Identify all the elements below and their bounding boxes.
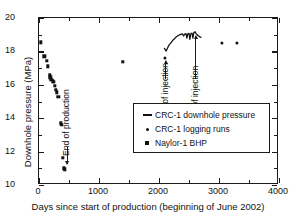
data-point (39, 41, 42, 44)
y-tick-right (272, 152, 277, 153)
x-tick-top (219, 18, 220, 23)
x-tick-minor-top (249, 18, 250, 21)
y-tick-minor (39, 135, 42, 136)
y-tick (39, 152, 44, 153)
y-axis-title: Downhole pressure (MPa) (22, 57, 33, 167)
y-tick-label: 14 (0, 112, 15, 122)
legend-label: CRC-1 logging runs (155, 124, 230, 134)
x-tick-minor-top (69, 18, 70, 21)
y-tick-right (272, 85, 277, 86)
y-tick-right (272, 18, 277, 19)
legend-key-line-icon (139, 114, 155, 115)
annotation-arrowhead (194, 35, 198, 39)
data-point (56, 95, 59, 98)
x-tick-top (279, 18, 280, 23)
legend-key-dot-icon (139, 128, 155, 131)
chart-legend: CRC-1 downhole pressure CRC-1 logging ru… (133, 103, 270, 153)
data-point (46, 65, 49, 68)
y-tick-minor (39, 68, 42, 69)
x-axis-title: Days since start of production (beginnin… (0, 201, 296, 212)
annotation-arrowhead (65, 161, 69, 165)
x-tick-minor (129, 180, 130, 183)
x-tick-label: 0 (15, 186, 61, 196)
y-tick-minor (39, 168, 42, 169)
legend-key-square-icon (139, 141, 155, 145)
y-tick-label: 18 (0, 45, 15, 55)
y-tick-minor-right (274, 35, 277, 36)
data-point (61, 156, 64, 159)
data-point (45, 59, 48, 62)
y-tick-minor-right (274, 68, 277, 69)
y-tick-label: 16 (0, 79, 15, 89)
x-tick-minor (189, 180, 190, 183)
legend-label: Naylor-1 BHP (155, 138, 207, 148)
y-tick-minor (39, 35, 42, 36)
x-tick-minor-top (129, 18, 130, 21)
x-tick-minor (249, 180, 250, 183)
y-tick-right (272, 118, 277, 119)
y-tick-minor-right (274, 168, 277, 169)
x-tick (279, 178, 280, 183)
y-tick-label: 12 (0, 146, 15, 156)
legend-label: CRC-1 downhole pressure (155, 110, 255, 120)
x-tick-top (99, 18, 100, 23)
data-point (43, 55, 46, 58)
y-tick (39, 51, 44, 52)
x-tick-top (39, 18, 40, 23)
data-point (55, 91, 58, 94)
x-tick-label: 3000 (195, 186, 241, 196)
y-tick-label: 20 (0, 12, 15, 22)
legend-item-naylor-bhp: Naylor-1 BHP (139, 136, 264, 150)
x-tick-top (159, 18, 160, 23)
legend-item-logging-runs: CRC-1 logging runs (139, 122, 264, 136)
x-tick-minor-top (189, 18, 190, 21)
x-tick (219, 178, 220, 183)
x-tick-label: 1000 (75, 186, 121, 196)
x-tick (39, 178, 40, 183)
plot-area: End of productionStart of injectionEnd o… (38, 17, 278, 184)
pressure-curve (39, 18, 279, 185)
data-point (121, 60, 124, 63)
annotation-label: End of production (61, 89, 71, 156)
y-tick-minor-right (274, 135, 277, 136)
y-tick-minor (39, 102, 42, 103)
data-point (63, 167, 66, 170)
chart-figure: End of productionStart of injectionEnd o… (0, 0, 296, 224)
y-tick-minor-right (274, 102, 277, 103)
x-tick (159, 178, 160, 183)
x-tick-minor (69, 180, 70, 183)
y-tick (39, 118, 44, 119)
legend-item-downhole-pressure: CRC-1 downhole pressure (139, 108, 264, 122)
y-tick-right (272, 51, 277, 52)
y-tick-label: 10 (0, 179, 15, 189)
x-tick-label: 2000 (135, 186, 181, 196)
x-tick-label: 4000 (255, 186, 296, 196)
x-tick (99, 178, 100, 183)
y-tick (39, 85, 44, 86)
data-point (53, 84, 56, 87)
